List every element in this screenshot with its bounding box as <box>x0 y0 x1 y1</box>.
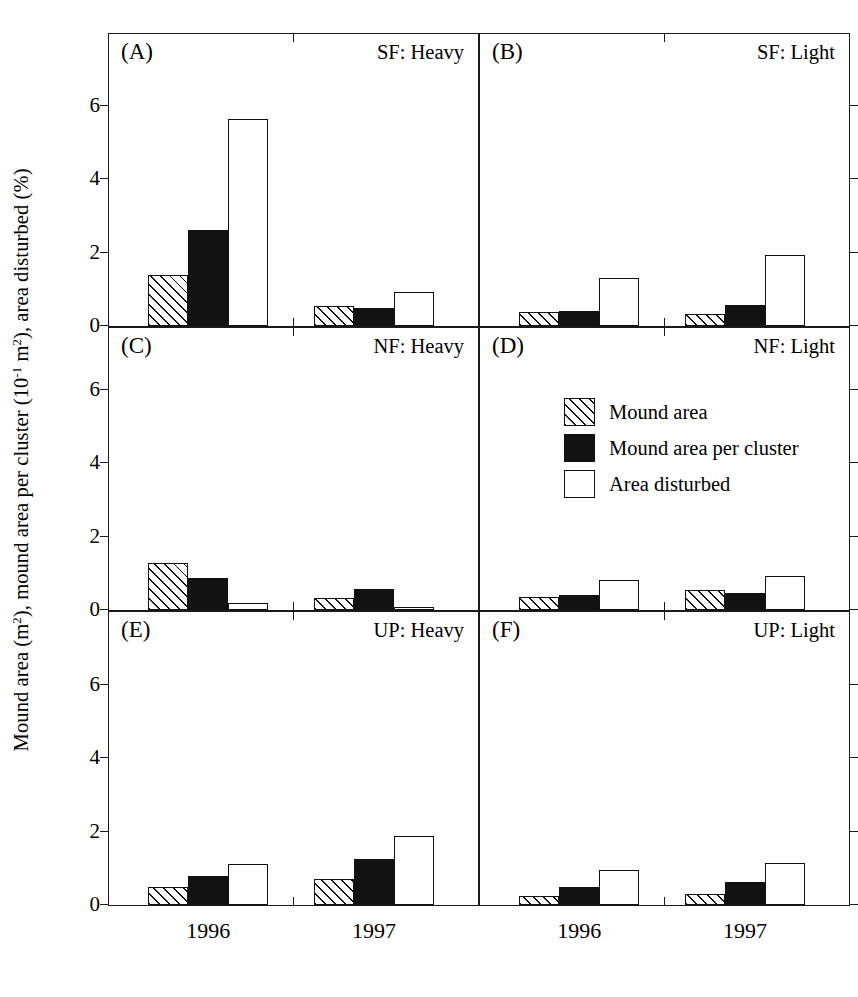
bar-area-disturbed-1997 <box>394 292 434 326</box>
panel-title: UP: Heavy <box>373 620 464 642</box>
bar-mound-area-per-cluster-1996 <box>188 230 228 326</box>
panel-title: SF: Light <box>757 42 835 64</box>
panel-title: NF: Light <box>754 336 835 358</box>
y-tick <box>100 831 109 832</box>
bar-area-disturbed-1997 <box>765 863 805 905</box>
bar-mound-area-1996 <box>148 887 188 905</box>
y-tick-label: 4 <box>90 745 101 770</box>
x-tick-mid-top <box>293 33 294 42</box>
y-tick-label: 2 <box>90 523 101 548</box>
panel-c: (C)NF: Heavy0246 <box>108 327 479 611</box>
y-title-seg-2: ), mound area per cluster (10 <box>10 378 32 618</box>
x-tick-mid-top <box>664 33 665 42</box>
y-tick-right <box>849 252 858 253</box>
bar-area-disturbed-1996 <box>599 278 639 327</box>
y-tick-label: 6 <box>90 92 101 117</box>
y-axis-title: Mound area (m2), mound area per cluster … <box>0 0 42 920</box>
bar-mound-area-1996 <box>519 312 559 326</box>
y-tick <box>100 178 109 179</box>
x-tick-label-1997: 1997 <box>352 918 396 944</box>
bar-area-disturbed-1997 <box>394 607 434 610</box>
panel-title: UP: Light <box>754 620 835 642</box>
panel-grid: (A)SF: Heavy0246(B)SF: Light(C)NF: Heavy… <box>108 33 850 906</box>
x-tick-mid-top <box>664 611 665 620</box>
legend-swatch-mound_area <box>564 398 595 426</box>
panel-tag: (C) <box>121 334 152 358</box>
x-tick-label-1996: 1996 <box>557 918 601 944</box>
y-tick-right <box>849 757 858 758</box>
y-tick <box>100 252 109 253</box>
y-tick-label: 0 <box>90 313 101 338</box>
panel-tag: (B) <box>492 40 523 64</box>
bar-mound-area-per-cluster-1997 <box>354 859 394 905</box>
bar-area-disturbed-1996 <box>599 870 639 905</box>
bar-mound-area-per-cluster-1996 <box>559 595 599 610</box>
bar-mound-area-1997 <box>314 879 354 905</box>
panel-e: (E)UP: Heavy024619961997 <box>108 611 479 906</box>
y-tick <box>100 536 109 537</box>
bar-mound-area-per-cluster-1997 <box>725 305 765 326</box>
bar-mound-area-per-cluster-1997 <box>725 593 765 610</box>
y-tick-label: 0 <box>90 892 101 917</box>
y-title-seg-3: m <box>10 346 32 367</box>
bar-area-disturbed-1996 <box>228 864 268 905</box>
legend: Mound areaMound area per clusterArea dis… <box>564 394 799 502</box>
panel-a: (A)SF: Heavy0246 <box>108 33 479 327</box>
y-tick <box>100 684 109 685</box>
x-tick-mid <box>664 897 665 906</box>
panel-tag: (E) <box>121 618 150 642</box>
y-tick-right <box>849 325 858 326</box>
y-tick <box>100 462 109 463</box>
bar-mound-area-per-cluster-1996 <box>188 876 228 905</box>
y-tick-right <box>849 462 858 463</box>
bar-mound-area-per-cluster-1996 <box>559 887 599 905</box>
legend-item-mound_area: Mound area <box>564 394 799 430</box>
panel-b: (B)SF: Light <box>479 33 850 327</box>
y-tick <box>100 904 109 905</box>
bar-mound-area-per-cluster-1996 <box>559 311 599 326</box>
x-tick-mid <box>664 318 665 327</box>
x-tick-mid <box>664 602 665 611</box>
bar-mound-area-1997 <box>314 306 354 326</box>
legend-swatch-mound_area_per_cluster <box>564 434 595 462</box>
legend-label-mound_area: Mound area <box>609 401 707 424</box>
x-tick-mid-top <box>293 611 294 620</box>
panel-tag: (D) <box>492 334 524 358</box>
bar-mound-area-per-cluster-1997 <box>354 589 394 610</box>
bar-area-disturbed-1997 <box>765 255 805 326</box>
legend-label-area_disturbed: Area disturbed <box>609 473 730 496</box>
y-tick <box>100 325 109 326</box>
y-tick-right <box>849 389 858 390</box>
y-title-sup-2: -1 <box>9 367 23 378</box>
y-tick-label: 4 <box>90 166 101 191</box>
panel-tag: (A) <box>121 40 153 64</box>
panel-tag: (F) <box>492 618 520 642</box>
panel-f: (F)UP: Light19961997 <box>479 611 850 906</box>
bar-area-disturbed-1997 <box>394 836 434 905</box>
bar-mound-area-per-cluster-1996 <box>188 578 228 610</box>
y-tick-right <box>849 684 858 685</box>
x-tick-label-1997: 1997 <box>723 918 767 944</box>
bar-mound-area-1997 <box>685 590 725 610</box>
y-tick-label: 6 <box>90 671 101 696</box>
y-tick-right <box>849 178 858 179</box>
bar-mound-area-1997 <box>314 598 354 610</box>
y-tick-right <box>849 536 858 537</box>
y-title-sup-3: 2 <box>9 339 23 345</box>
y-tick-right <box>849 105 858 106</box>
bar-mound-area-per-cluster-1997 <box>354 308 394 326</box>
bar-area-disturbed-1996 <box>599 580 639 611</box>
y-title-seg-4: ), area disturbed (%) <box>10 169 32 340</box>
x-tick-mid-top <box>664 327 665 336</box>
legend-item-mound_area_per_cluster: Mound area per cluster <box>564 430 799 466</box>
panel-title: SF: Heavy <box>377 42 464 64</box>
y-tick-label: 0 <box>90 597 101 622</box>
y-tick-label: 2 <box>90 818 101 843</box>
bar-mound-area-1997 <box>685 314 725 326</box>
legend-label-mound_area_per_cluster: Mound area per cluster <box>609 437 799 460</box>
bar-mound-area-1996 <box>148 275 188 326</box>
y-tick-label: 6 <box>90 376 101 401</box>
bar-mound-area-1996 <box>519 597 559 610</box>
legend-swatch-area_disturbed <box>564 470 595 498</box>
